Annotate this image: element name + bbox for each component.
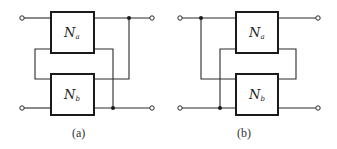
junction-dot-b-bot <box>218 106 222 110</box>
junction-dot-a-top <box>127 16 131 20</box>
terminal-a-top-right <box>150 16 154 20</box>
caption-a: (a) <box>72 126 85 140</box>
terminal-b-bot-left <box>178 106 182 110</box>
terminal-b-top-right <box>316 16 320 20</box>
two-port-interconnection-diagram: Na Nb (a) Na Nb <box>0 0 337 149</box>
wire-a-left-loop <box>35 49 51 79</box>
terminal-a-top-left <box>20 16 24 20</box>
wire-b-right-loop <box>278 49 296 79</box>
terminal-b-bot-right <box>316 106 320 110</box>
junction-dot-b-top <box>199 16 203 20</box>
panel-a: Na Nb (a) <box>20 12 154 140</box>
terminal-a-bot-left <box>20 106 24 110</box>
terminal-a-bot-right <box>150 106 154 110</box>
junction-dot-a-bot <box>111 106 115 110</box>
terminal-b-top-left <box>178 16 182 20</box>
panel-b: Na Nb (b) <box>178 12 320 140</box>
caption-b: (b) <box>237 126 251 140</box>
